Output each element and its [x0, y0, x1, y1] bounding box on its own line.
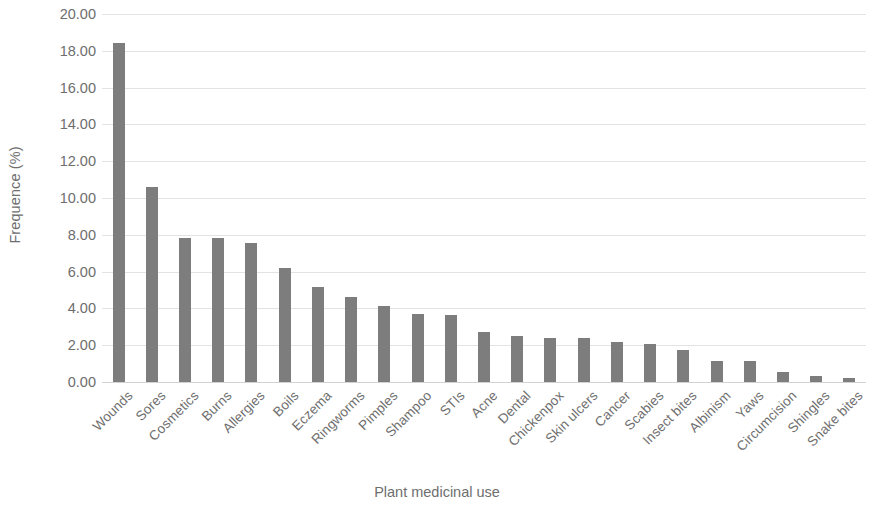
bar — [544, 338, 556, 382]
bar — [677, 350, 689, 382]
y-axis-tick-label: 10.00 — [28, 190, 96, 206]
bar — [179, 238, 191, 382]
bar — [245, 243, 257, 382]
y-axis-tick-label: 18.00 — [28, 43, 96, 59]
y-axis-title: Frequence (%) — [0, 0, 30, 390]
bar-chart-figure: Frequence (%) 20.0018.0016.0014.0012.001… — [0, 0, 874, 515]
bar — [146, 187, 158, 382]
bar — [378, 306, 390, 382]
y-axis-tick-label: 6.00 — [28, 264, 96, 280]
bar — [113, 43, 125, 382]
bar — [511, 336, 523, 382]
x-axis-tick-labels: WoundsSoresCosmeticsBurnsAllergiesBoilsE… — [102, 386, 874, 478]
y-axis-tick-label: 20.00 — [28, 6, 96, 22]
bar — [810, 376, 822, 382]
y-axis-tick-label: 8.00 — [28, 227, 96, 243]
y-axis-tick-labels: 20.0018.0016.0014.0012.0010.008.006.004.… — [28, 0, 102, 395]
bar — [212, 238, 224, 382]
bar — [345, 297, 357, 382]
bar — [611, 342, 623, 382]
bar — [711, 361, 723, 382]
bar — [644, 344, 656, 382]
bar — [279, 268, 291, 382]
y-axis-tick-label: 14.00 — [28, 116, 96, 132]
y-axis-tick-label: 12.00 — [28, 153, 96, 169]
gridline — [102, 382, 866, 383]
bar — [478, 332, 490, 382]
x-axis-tick-label: STIs — [437, 388, 468, 419]
y-axis-tick-label: 16.00 — [28, 80, 96, 96]
bar — [744, 361, 756, 382]
y-axis-tick-label: 2.00 — [28, 337, 96, 353]
x-axis-title: Plant medicinal use — [0, 484, 874, 500]
bar — [843, 378, 855, 382]
bar — [312, 287, 324, 382]
plot-area — [102, 14, 866, 382]
bar — [578, 338, 590, 382]
y-axis-tick-label: 0.00 — [28, 374, 96, 390]
bar — [412, 314, 424, 382]
y-axis-tick-label: 4.00 — [28, 300, 96, 316]
bar-series — [102, 14, 866, 382]
bar — [777, 372, 789, 382]
y-axis-title-text: Frequence (%) — [7, 146, 23, 243]
bar — [445, 315, 457, 382]
